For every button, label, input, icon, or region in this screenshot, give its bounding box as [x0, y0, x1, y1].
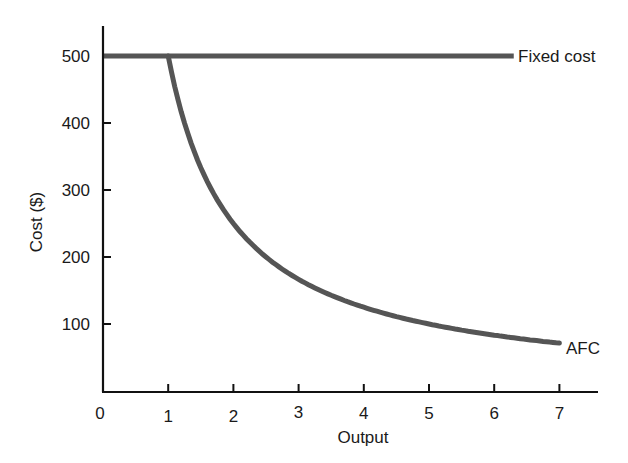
series-labels: Fixed costAFC	[518, 47, 600, 358]
plot-area	[104, 56, 559, 343]
x-tick-label: 4	[359, 404, 368, 423]
chart: 01234567 100200300400500 Output Cost ($)…	[0, 0, 628, 463]
y-tick-label: 500	[62, 47, 90, 66]
y-tick-label: 100	[62, 315, 90, 334]
y-tick-label: 200	[62, 248, 90, 267]
x-tick-label: 6	[489, 404, 498, 423]
x-tick-label: 1	[163, 407, 172, 426]
x-tick-label: 7	[555, 404, 564, 423]
x-tick-label: 3	[294, 403, 303, 422]
fixed-cost-label: Fixed cost	[518, 47, 596, 66]
afc-label: AFC	[566, 339, 600, 358]
x-tick-label: 0	[95, 404, 104, 423]
afc-curve	[168, 56, 559, 343]
y-axis-title: Cost ($)	[27, 192, 46, 252]
x-axis-title: Output	[337, 428, 388, 447]
x-tick-label: 2	[229, 407, 238, 426]
x-tick-label: 5	[424, 404, 433, 423]
y-tick-label: 300	[62, 181, 90, 200]
y-tick-label: 400	[62, 114, 90, 133]
x-axis-ticks: 01234567	[95, 384, 564, 426]
